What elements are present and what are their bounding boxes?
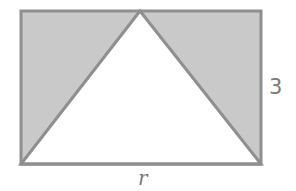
width-label: r	[138, 168, 148, 188]
rectangle-triangle-diagram: 3 r	[0, 0, 296, 191]
height-label: 3	[269, 77, 282, 98]
diagram-canvas	[0, 0, 296, 191]
